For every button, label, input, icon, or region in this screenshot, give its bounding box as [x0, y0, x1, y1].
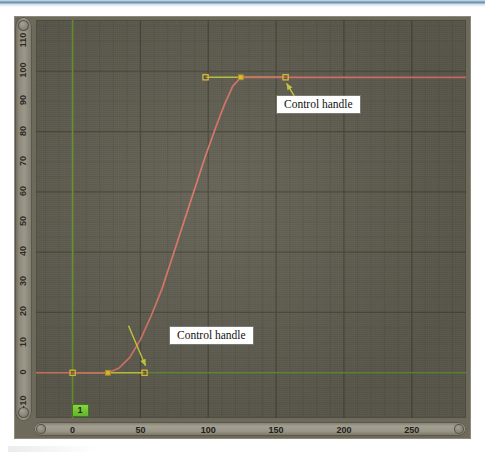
time-tick-label: 250 — [404, 425, 419, 435]
value-ruler-vertical[interactable] — [15, 17, 32, 421]
ruler-handle-top-icon[interactable] — [18, 20, 29, 31]
top-accent-shadow — [0, 4, 485, 7]
curve-canvas[interactable] — [36, 20, 466, 418]
callout-control-handle-bottom: Control handle — [170, 327, 253, 344]
ruler-handle-left-icon[interactable] — [36, 424, 46, 434]
graph-editor-panel: -100102030405060708090100110 Control han… — [15, 17, 470, 438]
axis-lines — [36, 20, 466, 418]
time-tick-label: 50 — [135, 425, 145, 435]
grid-minor-lines — [36, 20, 466, 418]
curve-plot — [36, 20, 466, 418]
time-tick-label: 100 — [201, 425, 216, 435]
grid-major-lines — [36, 20, 466, 418]
time-tick-label: 0 — [70, 425, 75, 435]
time-tick-label: 150 — [269, 425, 284, 435]
time-tick-label: 200 — [336, 425, 351, 435]
time-ruler-horizontal[interactable] — [34, 422, 466, 436]
callout-control-handle-top: Control handle — [277, 96, 360, 113]
ruler-handle-right-icon[interactable] — [454, 424, 464, 434]
page-edge-artifact — [8, 446, 98, 452]
ruler-handle-bottom-icon[interactable] — [18, 407, 29, 418]
current-frame-badge[interactable]: 1 — [72, 404, 89, 417]
